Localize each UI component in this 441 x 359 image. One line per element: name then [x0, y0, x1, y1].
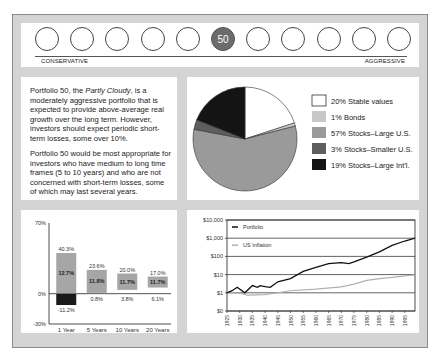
risk-dial-4[interactable] [176, 27, 200, 51]
high-label: 23.6% [89, 263, 105, 269]
conservative-label: CONSERVATIVE [41, 58, 88, 64]
p1-prefix: Portfolio 50, the [30, 86, 85, 95]
average-label: 11.7% [120, 279, 135, 285]
risk-dial-9[interactable] [352, 27, 376, 51]
low-label: -11.2% [58, 307, 75, 313]
category-label: 20 Years [146, 327, 169, 333]
risk-dial-3[interactable] [141, 27, 165, 51]
description-paragraph-2: Portfolio 50 would be most appropriate f… [30, 149, 172, 197]
description-paragraph-1: Portfolio 50, the Partly Cloudy, is a mo… [30, 86, 172, 143]
portfolio-frame: 50 CONSERVATIVE AGGRESSIVE Portfolio 50,… [12, 14, 428, 348]
high-label: 17.0% [150, 270, 166, 276]
x-tick-label: 1990 [389, 315, 395, 326]
legend-label-1: 1% Bonds [331, 113, 365, 122]
x-tick-label: 1950 [288, 315, 294, 326]
allocation-pie-chart: 20% Stable values1% Bonds57% Stocks–Larg… [187, 77, 419, 200]
risk-dial-8[interactable] [317, 27, 341, 51]
risk-dial-row: 50 [35, 27, 417, 53]
average-label: 12.7% [58, 270, 74, 276]
risk-dial-1[interactable] [70, 27, 94, 51]
description-text: Portfolio 50, the Partly Cloudy, is a mo… [30, 86, 172, 203]
risk-dial-5[interactable]: 50 [211, 27, 235, 51]
x-tick-label: 1995 [402, 315, 408, 326]
risk-dial-10[interactable] [387, 27, 411, 51]
legend-label-0: 20% Stable values [331, 97, 393, 106]
y-tick-label: $10,000 [203, 217, 223, 223]
average-label: 11.8% [89, 278, 104, 284]
risk-scale-panel: 50 CONSERVATIVE AGGRESSIVE [21, 23, 419, 67]
x-tick-label: 1925 [224, 315, 230, 326]
portfolio-nickname: Partly Cloudy [85, 86, 130, 95]
x-tick-label: 1935 [249, 315, 255, 326]
x-tick-label: 1930 [237, 315, 243, 326]
x-tick-label: 1970 [338, 315, 344, 326]
x-tick-label: 1960 [313, 315, 319, 326]
x-tick-label: 1980 [364, 315, 370, 326]
y-tick-label: $10 [214, 272, 223, 278]
category-label: 5 Years [87, 327, 107, 333]
low-label: 0.8% [90, 296, 103, 302]
category-label: 10 Years [116, 327, 139, 333]
y-tick-label: 70% [35, 220, 46, 226]
y-tick-label: $0 [217, 308, 223, 314]
y-tick-label: 0% [38, 291, 46, 297]
description-panel: Portfolio 50, the Partly Cloudy, is a mo… [21, 77, 177, 200]
x-tick-label: 1955 [300, 315, 306, 326]
y-tick-label: -30% [33, 321, 46, 327]
legend-label-3: 3% Stocks–Smaller U.S. [331, 145, 413, 154]
x-tick-label: 1975 [351, 315, 357, 326]
risk-dial-2[interactable] [105, 27, 129, 51]
risk-dial-6[interactable] [246, 27, 270, 51]
x-tick-label: 1940 [262, 315, 268, 326]
low-label: 3.8% [121, 296, 134, 302]
low-label: 6.1% [151, 296, 164, 302]
x-tick-label: 1945 [275, 315, 281, 326]
legend-label-1: US Inflation [243, 242, 271, 248]
y-tick-label: $1,000 [206, 235, 223, 241]
y-tick-label: $1 [217, 290, 223, 296]
allocation-pie-panel: 20% Stable values1% Bonds57% Stocks–Larg… [187, 77, 419, 200]
growth-line-chart: $10,000$1,000$100$10$1$01925193019351940… [187, 210, 419, 333]
risk-scale-line [35, 56, 407, 57]
returns-range-chart: 70%0%-30%40.3%12.7%-11.2%1 Year23.6%11.8… [21, 210, 177, 333]
legend-swatch-1 [312, 111, 326, 122]
y-tick-label: $100 [211, 253, 223, 259]
growth-panel: $10,000$1,000$100$10$1$01925193019351940… [187, 210, 419, 333]
series-line-1 [227, 275, 415, 295]
legend-label-0: Portfolio [243, 224, 263, 230]
legend-swatch-3 [312, 143, 326, 154]
legend-label-2: 57% Stocks–Large U.S. [331, 129, 411, 138]
average-label: 11.7% [150, 279, 165, 285]
category-label: 1 Year [58, 327, 75, 333]
negative-bar [56, 294, 76, 305]
aggressive-label: AGGRESSIVE [365, 58, 405, 64]
returns-range-panel: 70%0%-30%40.3%12.7%-11.2%1 Year23.6%11.8… [21, 210, 177, 333]
legend-swatch-2 [312, 127, 326, 138]
x-tick-label: 1965 [326, 315, 332, 326]
high-label: 40.3% [58, 246, 74, 252]
risk-dial-7[interactable] [281, 27, 305, 51]
legend-swatch-4 [312, 159, 326, 170]
legend-label-4: 19% Stocks–Large Int'l. [331, 161, 410, 170]
x-tick-label: 1985 [376, 315, 382, 326]
risk-dial-0[interactable] [35, 27, 59, 51]
legend-swatch-0 [312, 95, 326, 106]
high-label: 20.0% [119, 267, 135, 273]
